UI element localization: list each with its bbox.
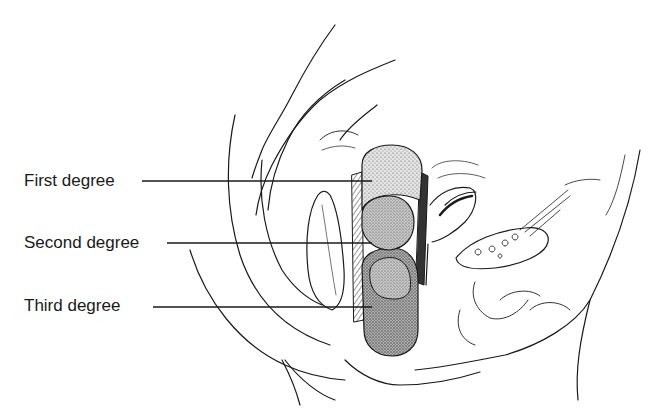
second-degree-mass: [362, 196, 414, 250]
posterior-wall-outline-icon: [307, 191, 344, 310]
anatomy-illustration: [0, 0, 656, 418]
label-second-degree: Second degree: [24, 234, 139, 251]
leader-lines: [142, 181, 372, 307]
bladder-outline-icon: [430, 187, 476, 242]
perineum-outline-icon: [285, 360, 335, 400]
label-third-degree: Third degree: [24, 297, 120, 314]
urethra-outline-icon: [426, 244, 428, 285]
rectum-outline-icon: [190, 115, 345, 380]
pubic-outline-icon: [415, 150, 640, 400]
prolapse-diagram: First degree Second degree Third degree: [0, 0, 656, 418]
label-first-degree: First degree: [24, 172, 115, 189]
